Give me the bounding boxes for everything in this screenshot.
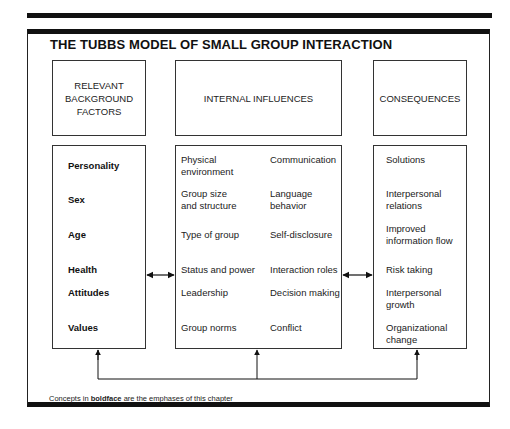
footnote: Concepts in boldface are the emphases of…	[49, 394, 233, 403]
footnote-bold: boldface	[91, 394, 122, 403]
connector-arrows	[0, 0, 510, 429]
feedback-loop	[98, 350, 417, 379]
